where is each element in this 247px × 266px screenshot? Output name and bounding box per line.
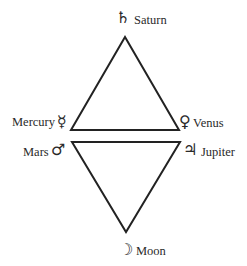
mars-label: Mars [23, 145, 49, 159]
moon-label: Moon [136, 244, 166, 258]
upper-triangle [71, 37, 179, 130]
mercury-icon: ☿ [57, 114, 67, 130]
saturn-icon: ♄ [116, 10, 130, 26]
mercury-label: Mercury [12, 115, 55, 129]
saturn-label: Saturn [134, 13, 167, 27]
jupiter-icon: ♃ [183, 142, 197, 158]
venus-label: Venus [193, 116, 224, 130]
moon-icon: ☽ [119, 242, 133, 258]
mars-icon: ♂ [51, 142, 65, 158]
triangles-diagram [0, 0, 247, 266]
venus-icon: ♀ [179, 114, 191, 130]
jupiter-label: Jupiter [201, 145, 235, 159]
lower-triangle [72, 142, 180, 232]
